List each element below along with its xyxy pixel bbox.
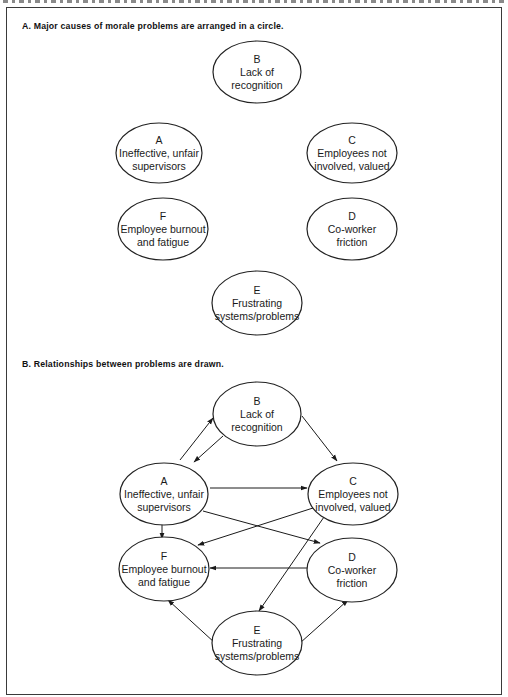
node-text-line2: supervisors xyxy=(132,160,186,172)
node-text-line1: Frustrating xyxy=(232,637,282,649)
node-text-line1: Employees not xyxy=(318,488,388,500)
node-letter: E xyxy=(253,624,260,636)
node-letter: D xyxy=(348,551,356,563)
node-text-line1: Frustrating xyxy=(232,297,282,309)
node-text-line1: Employee burnout xyxy=(120,223,205,235)
node-a: A Ineffective, unfair supervisors xyxy=(120,463,208,525)
node-text-line2: recognition xyxy=(231,421,283,433)
node-text-line1: Ineffective, unfair xyxy=(119,147,199,159)
edge-b-to-a xyxy=(194,436,223,462)
node-letter: C xyxy=(349,475,357,487)
node-letter: B xyxy=(253,53,260,65)
node-text-line2: involved, valued xyxy=(314,160,389,172)
node-text-line2: recognition xyxy=(231,79,283,91)
node-b: B Lack of recognition xyxy=(213,41,301,103)
node-text-line2: systems/problems xyxy=(215,310,300,322)
node-c: C Employees not involved, valued xyxy=(308,463,398,525)
node-letter: D xyxy=(348,210,356,222)
node-e: E Frustrating systems/problems xyxy=(212,611,302,675)
node-letter: E xyxy=(253,284,260,296)
node-letter: C xyxy=(348,134,356,146)
node-text-line2: friction xyxy=(337,236,368,248)
node-text-line2: involved, valued xyxy=(315,501,390,513)
section-a-diagram: B Lack of recognition A Ineffective, unf… xyxy=(116,41,397,335)
edge-e-to-d xyxy=(300,600,348,643)
node-letter: F xyxy=(160,210,166,222)
node-text-line1: Lack of xyxy=(240,408,274,420)
node-letter: A xyxy=(155,134,162,146)
node-d: D Co-worker friction xyxy=(307,198,397,260)
section-b-diagram: B Lack of recognition A Ineffective, unf… xyxy=(119,382,398,675)
section-b-edges xyxy=(162,416,348,643)
node-d: D Co-worker friction xyxy=(307,538,397,602)
node-text-line2: and fatigue xyxy=(138,576,190,588)
node-text-line2: friction xyxy=(337,577,368,589)
edge-b-to-c xyxy=(302,416,337,461)
node-text-line2: and fatigue xyxy=(137,236,189,248)
node-letter: A xyxy=(160,475,167,487)
node-text-line1: Ineffective, unfair xyxy=(124,488,204,500)
node-e: E Frustrating systems/problems xyxy=(212,271,302,335)
edge-e-to-f xyxy=(168,600,215,643)
node-text-line1: Co-worker xyxy=(328,223,377,235)
node-text-line1: Lack of xyxy=(240,66,274,78)
edge-c-to-f xyxy=(198,508,313,545)
node-text-line2: supervisors xyxy=(137,501,191,513)
node-text-line1: Employee burnout xyxy=(121,563,206,575)
node-f: F Employee burnout and fatigue xyxy=(119,537,209,601)
node-f: F Employee burnout and fatigue xyxy=(118,198,208,260)
node-letter: F xyxy=(161,550,167,562)
node-text-line2: systems/problems xyxy=(215,650,300,662)
node-a: A Ineffective, unfair supervisors xyxy=(116,123,202,183)
node-c: C Employees not involved, valued xyxy=(307,123,397,183)
node-text-line1: Co-worker xyxy=(328,564,377,576)
diagram-canvas: B Lack of recognition A Ineffective, unf… xyxy=(0,0,508,697)
node-b: B Lack of recognition xyxy=(213,382,301,446)
node-text-line1: Employees not xyxy=(317,147,387,159)
node-letter: B xyxy=(253,395,260,407)
edge-a-to-b xyxy=(180,418,213,460)
